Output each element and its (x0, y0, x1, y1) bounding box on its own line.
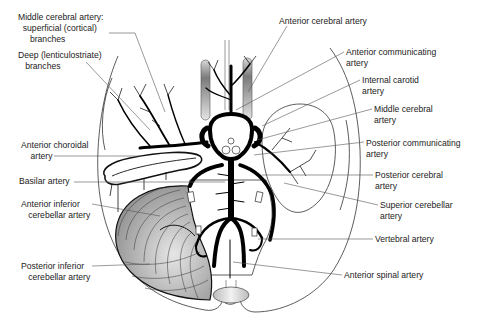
mammillary-bodies (222, 138, 240, 154)
label-anterior-communicating: Anterior communicating artery (346, 47, 436, 69)
label-posterior-cerebral: Posterior cerebral artery (375, 170, 443, 192)
medulla-section (213, 287, 249, 303)
olfactory-tracts (201, 40, 252, 120)
label-middle-cerebral: Middle cerebral artery (374, 104, 433, 126)
label-anterior-choroidal: Anterior choroidal artery (21, 140, 88, 162)
label-anterior-inferior-cerebellar: Anterior inferior cerebellar artery (21, 199, 90, 221)
label-mca-superficial: Middle cerebral artery: superficial (cor… (18, 12, 104, 45)
label-anterior-cerebral: Anterior cerebral artery (279, 16, 367, 27)
label-vertebral: Vertebral artery (375, 234, 434, 245)
label-posterior-inferior-cerebellar: Posterior inferior cerebellar artery (21, 261, 90, 283)
label-superior-cerebellar: Superior cerebellar artery (380, 200, 453, 222)
label-posterior-communicating: Posterior communicating artery (366, 138, 461, 160)
label-deep-branches: Deep (lenticulostriate) branches (18, 50, 102, 72)
label-anterior-spinal: Anterior spinal artery (344, 270, 423, 281)
choroid-loop (104, 152, 202, 184)
leader-middle-cerebral (257, 109, 372, 140)
leader-superior-cerebellar (284, 183, 378, 205)
label-internal-carotid: Internal carotid artery (362, 75, 419, 97)
leader-posterior-communicating (254, 142, 364, 155)
brain-arteries-diagram: Middle cerebral artery: superficial (cor… (0, 0, 482, 324)
label-basilar: Basilar artery (19, 176, 70, 187)
leader-internal-carotid (262, 80, 360, 126)
